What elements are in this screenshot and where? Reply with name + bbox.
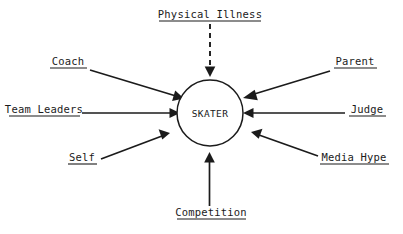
diagram-canvas: Physical Illness Coach Team Leaders Self — [0, 0, 403, 234]
arrowhead-icon-competition — [204, 152, 215, 163]
connector-parent — [251, 71, 330, 95]
node-media-hype: Media Hype — [251, 129, 389, 164]
influence-diagram: Physical Illness Coach Team Leaders Self — [0, 0, 403, 234]
node-coach: Coach — [50, 55, 184, 101]
node-label-self: Self — [69, 151, 95, 163]
node-label-media-hype: Media Hype — [321, 151, 386, 163]
node-physical-illness: Physical Illness — [158, 8, 262, 77]
connector-media-hype — [259, 135, 318, 156]
node-team-leaders: Team Leaders — [5, 103, 180, 118]
center-node-label: SKATER — [192, 108, 229, 119]
node-self: Self — [68, 129, 170, 164]
arrowhead-icon-judge — [243, 108, 254, 118]
node-label-parent: Parent — [335, 55, 374, 67]
arrowhead-icon-media-hype — [251, 129, 263, 139]
center-node-skater: SKATER — [177, 80, 243, 146]
node-label-physical-illness: Physical Illness — [158, 8, 262, 20]
node-label-team-leaders: Team Leaders — [5, 103, 83, 115]
node-label-judge: Judge — [351, 103, 384, 115]
connector-self — [101, 136, 162, 159]
node-competition: Competition — [175, 152, 247, 219]
connector-coach — [90, 70, 176, 96]
arrowhead-icon-self — [159, 129, 170, 139]
node-judge: Judge — [243, 103, 386, 118]
arrowhead-icon-parent — [243, 90, 258, 100]
node-parent: Parent — [243, 55, 377, 100]
node-label-coach: Coach — [52, 55, 85, 67]
node-label-competition: Competition — [175, 206, 247, 218]
arrowhead-icon-physical-illness — [205, 67, 216, 78]
